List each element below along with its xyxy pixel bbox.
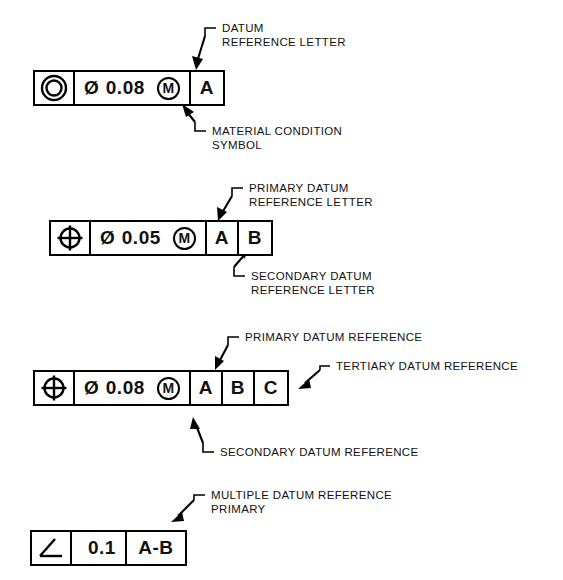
feature-control-frame-4[interactable]: 0.1 A-B — [30, 530, 187, 566]
datum-cell-primary: A — [191, 72, 223, 104]
note-secondary-datum-reference-letter: SECONDARY DATUM REFERENCE LETTER — [251, 270, 375, 297]
feature-control-frame-2[interactable]: Ø 0.05 M A B — [49, 220, 273, 256]
diameter-symbol: Ø — [100, 227, 115, 249]
datum-cell-primary: A — [207, 222, 239, 254]
note-multiple-datum-reference-primary: MULTIPLE DATUM REFERENCE PRIMARY — [211, 489, 392, 516]
feature-control-frame-1[interactable]: Ø 0.08 M A — [33, 70, 225, 106]
angularity-symbol — [32, 532, 72, 564]
tolerance-cell-4: 0.1 — [72, 532, 127, 564]
position-symbol — [35, 372, 75, 404]
datum-cell-secondary: B — [239, 222, 271, 254]
diameter-symbol: Ø — [84, 77, 99, 99]
datum-cell-secondary: B — [223, 372, 255, 404]
drawing-sheet: Ø 0.08 M A DATUM REFERENCE LETTER MATERI… — [0, 0, 563, 580]
note-primary-datum-reference-letter: PRIMARY DATUM REFERENCE LETTER — [249, 182, 373, 209]
tolerance-cell-2: Ø 0.05 M — [91, 222, 207, 254]
tolerance-value: 0.08 — [106, 77, 145, 99]
material-condition-symbol: M — [157, 77, 180, 100]
datum-letter: A — [215, 227, 229, 249]
datum-letter: A-B — [138, 537, 173, 559]
tolerance-value: 0.08 — [106, 377, 145, 399]
tolerance-value: 0.05 — [122, 227, 161, 249]
note-datum-reference-letter: DATUM REFERENCE LETTER — [222, 22, 346, 49]
note-material-condition-symbol: MATERIAL CONDITION SYMBOL — [212, 125, 342, 152]
feature-control-frame-3[interactable]: Ø 0.08 M A B C — [33, 370, 289, 406]
note-primary-datum-reference: PRIMARY DATUM REFERENCE — [245, 331, 422, 345]
datum-letter: A — [199, 377, 213, 399]
note-tertiary-datum-reference: TERTIARY DATUM REFERENCE — [336, 360, 518, 374]
position-symbol — [51, 222, 91, 254]
material-condition-symbol: M — [157, 377, 180, 400]
tolerance-cell-1: Ø 0.08 M — [75, 72, 191, 104]
datum-letter: A — [200, 77, 214, 99]
clipped-header-strip — [0, 0, 563, 1]
tolerance-cell-3: Ø 0.08 M — [75, 372, 191, 404]
datum-letter: B — [248, 227, 262, 249]
datum-cell-multiple: A-B — [127, 532, 185, 564]
note-secondary-datum-reference: SECONDARY DATUM REFERENCE — [220, 446, 419, 460]
datum-cell-primary: A — [191, 372, 223, 404]
datum-letter: B — [231, 377, 245, 399]
material-condition-symbol: M — [173, 227, 196, 250]
tolerance-value: 0.1 — [88, 537, 116, 559]
datum-letter: C — [264, 377, 278, 399]
datum-cell-tertiary: C — [255, 372, 287, 404]
concentricity-symbol — [35, 72, 75, 104]
diameter-symbol: Ø — [84, 377, 99, 399]
